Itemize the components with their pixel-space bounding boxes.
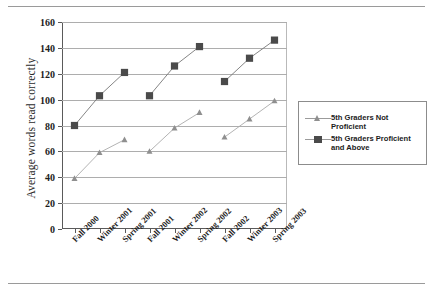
chart-legend: 5th Graders Not Proficient 5th Graders P… [298, 101, 427, 165]
legend-item-proficient: 5th Graders Proficient and Above [305, 134, 422, 153]
series-layer [62, 22, 287, 229]
chart-figure: Average words read correctly 02040608010… [0, 14, 433, 280]
data-point [196, 43, 203, 50]
data-point [146, 92, 153, 99]
data-point [272, 98, 278, 104]
y-tick-label: 100 [40, 94, 55, 105]
y-tick-label: 60 [45, 146, 55, 157]
data-point [222, 134, 228, 140]
data-point [171, 62, 178, 69]
data-point [97, 149, 103, 155]
plot-area: 020406080100120140160 Fall 2000Winter 20… [62, 22, 287, 229]
y-axis-title: Average words read correctly [25, 53, 37, 203]
y-tick-label: 80 [45, 120, 55, 131]
data-point [271, 37, 278, 44]
legend-label-not-proficient: 5th Graders Not Proficient [331, 113, 422, 132]
series-proficient [71, 37, 278, 130]
y-tick-label: 160 [40, 17, 55, 28]
legend-item-not-proficient: 5th Graders Not Proficient [305, 113, 422, 132]
data-point [122, 137, 128, 143]
page-rule-bottom [8, 283, 425, 284]
y-tick-mark [58, 229, 62, 230]
y-tick-label: 120 [40, 68, 55, 79]
triangle-icon [305, 113, 331, 124]
y-tick-label: 20 [45, 198, 55, 209]
data-point [121, 69, 128, 76]
series-not-proficient [72, 98, 278, 181]
data-point [221, 78, 228, 85]
data-point [172, 125, 178, 131]
data-point [96, 92, 103, 99]
data-point [197, 109, 203, 115]
y-tick-label: 40 [45, 172, 55, 183]
y-tick-label: 0 [50, 224, 55, 235]
page-rule-top [8, 6, 425, 7]
legend-label-proficient: 5th Graders Proficient and Above [331, 134, 422, 153]
data-point [247, 116, 253, 122]
square-icon [305, 134, 331, 145]
data-point [246, 55, 253, 62]
y-tick-label: 140 [40, 42, 55, 53]
data-point [71, 122, 78, 129]
